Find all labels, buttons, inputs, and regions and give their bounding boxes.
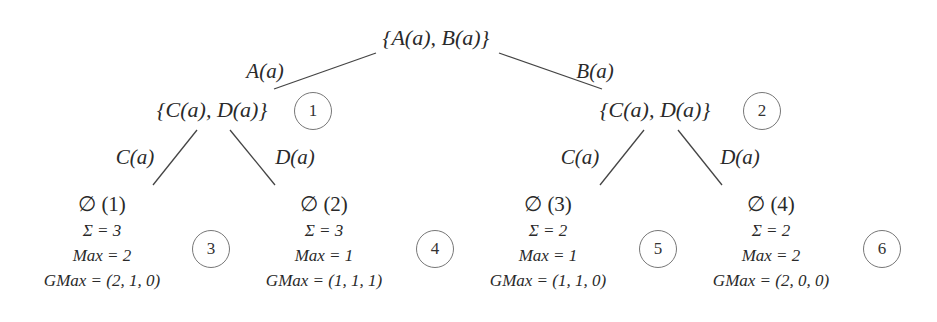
- leaf-title: ∅ (4): [713, 190, 829, 218]
- leaf-gmax: GMax = (1, 1, 1): [266, 268, 382, 293]
- leaf-1: ∅ (1) Σ = 3 Max = 2 GMax = (2, 1, 0): [44, 190, 160, 293]
- circle-marker-3: 3: [192, 230, 230, 268]
- node-2: {C(a), D(a)}: [600, 97, 710, 123]
- edge-root-left: [274, 53, 376, 89]
- leaf-gmax: GMax = (2, 0, 0): [713, 268, 829, 293]
- edge-label-a: A(a): [246, 59, 283, 84]
- leaf-gmax: GMax = (1, 1, 0): [490, 268, 606, 293]
- edge-label-d-left: D(a): [275, 145, 315, 170]
- leaf-title: ∅ (1): [44, 190, 160, 218]
- edge-label-c-left: C(a): [116, 145, 155, 170]
- leaf-sigma: Σ = 2: [490, 218, 606, 243]
- leaf-sigma: Σ = 3: [44, 218, 160, 243]
- leaf-max: Max = 2: [44, 243, 160, 268]
- leaf-max: Max = 1: [266, 243, 382, 268]
- leaf-2: ∅ (2) Σ = 3 Max = 1 GMax = (1, 1, 1): [266, 190, 382, 293]
- edge-label-c-right: C(a): [561, 145, 600, 170]
- leaf-3: ∅ (3) Σ = 2 Max = 1 GMax = (1, 1, 0): [490, 190, 606, 293]
- leaf-sigma: Σ = 3: [266, 218, 382, 243]
- circle-marker-4: 4: [416, 230, 454, 268]
- edge-n2-d: [678, 130, 722, 185]
- node-1: {C(a), D(a)}: [157, 97, 267, 123]
- edge-n1-d: [230, 130, 275, 185]
- leaf-title: ∅ (3): [490, 190, 606, 218]
- circle-marker-6: 6: [863, 230, 901, 268]
- leaf-max: Max = 2: [713, 243, 829, 268]
- leaf-gmax: GMax = (2, 1, 0): [44, 268, 160, 293]
- circle-marker-5: 5: [639, 230, 677, 268]
- leaf-sigma: Σ = 2: [713, 218, 829, 243]
- edge-label-d-right: D(a): [720, 145, 760, 170]
- leaf-max: Max = 1: [490, 243, 606, 268]
- leaf-4: ∅ (4) Σ = 2 Max = 2 GMax = (2, 0, 0): [713, 190, 829, 293]
- leaf-title: ∅ (2): [266, 190, 382, 218]
- circle-marker-1: 1: [294, 92, 332, 130]
- edge-n1-c: [153, 130, 197, 185]
- root-node: {A(a), B(a)}: [383, 25, 490, 51]
- circle-marker-2: 2: [743, 92, 781, 130]
- edge-n2-c: [600, 130, 644, 185]
- edge-label-b: B(a): [576, 59, 613, 84]
